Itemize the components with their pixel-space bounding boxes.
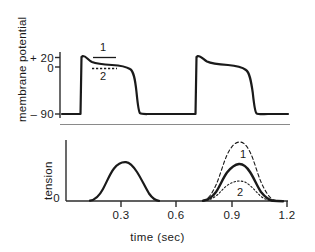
bottom-panel-plot: [0, 0, 315, 252]
figure-canvas: membrane potential + 20 0 – 90 1 2 tensi…: [0, 0, 315, 252]
xtick-label-0-3: 0.3: [105, 209, 137, 221]
tension-curve-first-beat: [90, 162, 159, 201]
xtick-label-1-2: 1.2: [271, 209, 303, 221]
x-axis-title: time (sec): [0, 231, 315, 243]
xtick-label-0-9: 0.9: [216, 209, 248, 221]
tension-curve-second-beat: [203, 164, 283, 201]
xtick-label-0-6: 0.6: [160, 209, 192, 221]
